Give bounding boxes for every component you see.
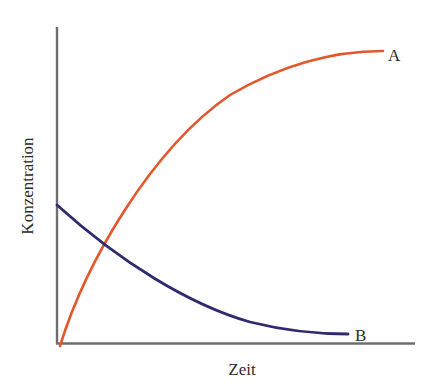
series-b-line (57, 205, 348, 334)
x-axis-title: Zeit (228, 360, 256, 379)
concentration-time-chart: A B Zeit Konzentration (0, 0, 441, 391)
series-a-line (60, 51, 383, 346)
y-axis-title: Konzentration (18, 137, 37, 235)
series-a-label: A (388, 46, 401, 65)
series-b-label: B (355, 326, 366, 345)
